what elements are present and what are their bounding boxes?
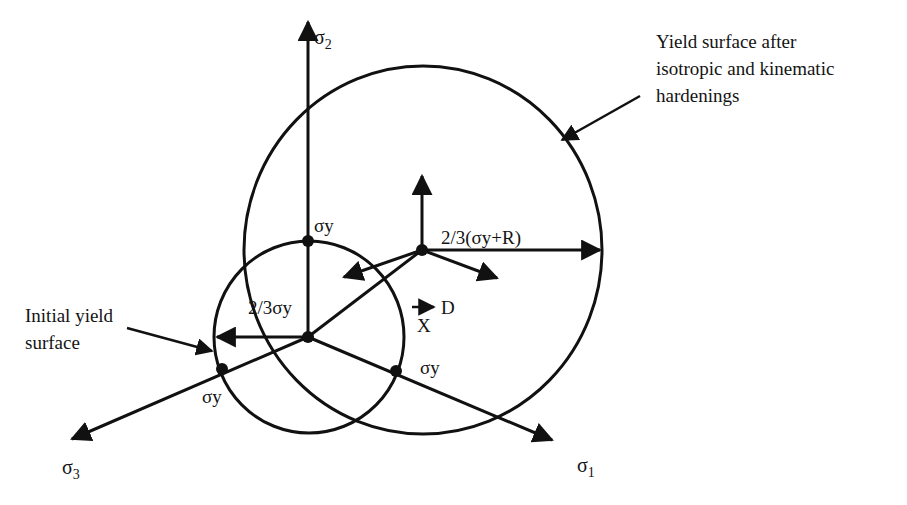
hardened-callout-arrow <box>562 96 640 140</box>
backstress-vector <box>308 250 422 337</box>
sigma-y-right-label: σy <box>420 357 440 378</box>
hardened-surface-caption-line3: hardenings <box>656 85 739 106</box>
sigma-y-top-dot <box>302 235 314 247</box>
hardened-surface-caption-line2: isotropic and kinematic <box>656 58 834 79</box>
initial-radius-label: 2/3σy <box>248 297 293 318</box>
sigma2-label: σ2 <box>314 26 332 52</box>
origin-dot <box>302 331 314 343</box>
sigma-y-left-label: σy <box>202 386 222 407</box>
direction-d-label: D <box>441 297 455 318</box>
hardened-surface-caption-line1: Yield surface after <box>656 31 797 52</box>
hardened-center-dot <box>416 244 428 256</box>
yield-surface-diagram: σ2 σ3 σ1 σy σy σy 2/3σy 2/3(σy+R) D X Yi… <box>0 0 907 505</box>
initial-callout-arrow <box>127 328 212 351</box>
sigma-y-top-label: σy <box>314 215 334 236</box>
sigma3-axis-arrow <box>72 337 308 439</box>
local-axis-1 <box>422 250 497 278</box>
sigma-y-left-dot <box>216 363 228 375</box>
initial-surface-caption-line2: surface <box>25 332 80 353</box>
backstress-x-label: X <box>417 315 431 336</box>
initial-surface-caption-line1: Initial yield <box>25 305 114 326</box>
sigma-y-right-dot <box>390 365 402 377</box>
sigma3-label: σ3 <box>62 456 80 482</box>
sigma1-label: σ1 <box>577 454 595 480</box>
hardened-radius-label: 2/3(σy+R) <box>441 227 521 249</box>
